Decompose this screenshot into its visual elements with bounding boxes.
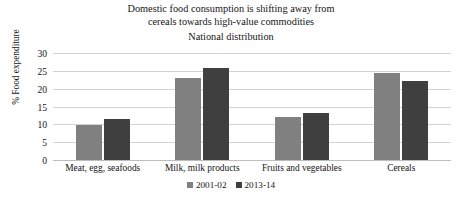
bar [402,81,428,160]
x-tick-label: Meat, egg, seafoods [53,163,153,173]
x-axis-category-labels: Meat, egg, seafoodsMilk, milk productsFr… [53,163,451,173]
chart-title-line-2: cereals towards high-value commodities [0,16,462,29]
bar [76,125,102,160]
legend-swatch-icon [187,182,193,188]
y-tick-label: 30 [37,48,47,59]
bar-group [352,53,452,160]
legend-item: 2013-14 [236,180,276,190]
y-tick-label: 15 [37,101,47,112]
y-tick-label: 0 [42,155,47,166]
bar-groups [53,53,451,160]
legend-swatch-icon [236,182,242,188]
bar [374,73,400,160]
y-tick-label: 25 [37,65,47,76]
bar [175,78,201,160]
bar [303,113,329,160]
legend-label: 2001-02 [196,180,227,190]
bar [104,119,130,160]
bar [275,117,301,161]
chart-subtitle: National distribution [0,31,462,42]
bar-group [153,53,253,160]
bar-group [53,53,153,160]
chart-title: Domestic food consumption is shifting aw… [0,3,462,28]
y-tick-label: 20 [37,83,47,94]
x-tick-label: Cereals [352,163,452,173]
axis-baseline [53,160,451,161]
legend-item: 2001-02 [187,180,227,190]
y-axis-ticks: 302520151050 [0,53,53,160]
chart-container: Domestic food consumption is shifting aw… [0,0,462,204]
chart-title-line-1: Domestic food consumption is shifting aw… [0,3,462,16]
y-tick-label: 5 [42,137,47,148]
x-tick-label: Milk, milk products [153,163,253,173]
bar-group [252,53,352,160]
legend-label: 2013-14 [245,180,276,190]
chart-legend: 2001-022013-14 [0,180,462,190]
x-tick-label: Fruits and vegetables [252,163,352,173]
bar [203,68,229,160]
y-tick-label: 10 [37,119,47,130]
